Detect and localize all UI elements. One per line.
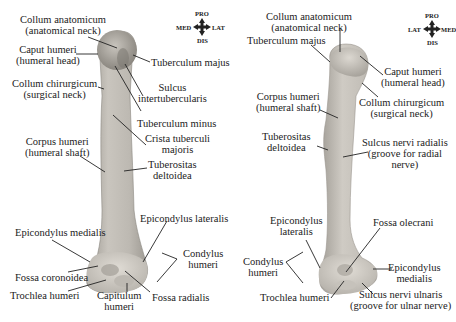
label-tuberositas-deltoidea: Tuberositasdeltoidea <box>148 159 197 181</box>
right-compass-distal: DIS <box>427 39 438 46</box>
label-trochlea-humeri: Trochlea humeri <box>10 290 79 301</box>
label-caput-humeri: Caput humeri(humeral head) <box>16 44 80 66</box>
left-compass-proximal: PRO <box>195 10 209 17</box>
label-r-tuberculum-majus: Tuberculum majus <box>247 35 326 46</box>
label-capitulum-humeri: Capitulumhumeri <box>97 290 141 312</box>
label-tuberculum-minus: Tuberculum minus <box>137 118 216 129</box>
label-r-condylus-humeri: Condylushumeri <box>243 256 283 278</box>
label-r-corpus-humeri: Corpus humeri(humeral shaft) <box>256 91 320 113</box>
right-compass-lateral: LAT <box>408 26 421 33</box>
label-r-tuberositas-deltoidea: Tuberositasdeltoidea <box>262 131 311 153</box>
left-compass-lateral: LAT <box>212 24 225 31</box>
label-r-collum-chirurgicum: Collum chirurgicum(surgical neck) <box>359 97 444 119</box>
label-collum-anatomicum: Collum anatomicum(anatomical neck) <box>20 14 106 36</box>
label-r-epicondylus-lateralis: Epicondyluslateralis <box>270 215 323 237</box>
label-r-sulcus-nervi-radialis: Sulcus nervi radialis(groove for radialn… <box>362 137 448 170</box>
label-epicondylus-lateralis: Epicondylus lateralis <box>140 213 228 224</box>
right-compass-medial: MED <box>441 26 456 33</box>
label-crista-tuberculi-majoris: Crista tuberculimajoris <box>145 133 210 155</box>
label-tuberculum-majus: Tuberculum majus <box>151 57 230 68</box>
label-r-trochlea-humeri: Trochlea humeri <box>260 292 329 303</box>
label-r-epicondylus-medialis: Epicondylusmedialis <box>388 262 441 284</box>
label-r-fossa-olecrani: Fossa olecrani <box>373 217 433 228</box>
label-epicondylus-medialis: Epicondylus medialis <box>15 227 106 238</box>
label-corpus-humeri: Corpus humeri(humeral shaft) <box>25 136 89 158</box>
label-r-sulcus-nervi-ulnaris: Sulcus nervi ulnaris(groove for ulnar ne… <box>350 289 451 311</box>
label-r-collum-anatomicum: Collum anatomicum(anatomical neck) <box>266 11 352 33</box>
label-fossa-coronoidea: Fossa coronoidea <box>15 272 88 283</box>
label-sulcus-intertubercularis: Sulcusintertubercularis <box>138 82 207 104</box>
left-compass-medial: MED <box>176 24 191 31</box>
label-collum-chirurgicum: Collum chirurgicum(surgical neck) <box>12 78 97 100</box>
right-compass-proximal: PRO <box>425 12 439 19</box>
right-compass-arrows <box>423 20 441 38</box>
label-fossa-radialis: Fossa radialis <box>152 292 209 303</box>
label-condylus-humeri: Condylushumeri <box>183 248 223 270</box>
left-compass-arrows <box>193 18 211 36</box>
left-compass-distal: DIS <box>197 37 208 44</box>
label-r-caput-humeri: Caput humeri(humeral head) <box>381 66 445 88</box>
